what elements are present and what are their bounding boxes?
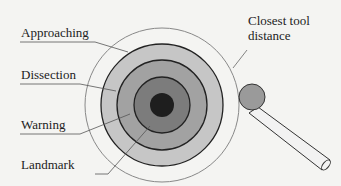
label-distance: distance [248, 29, 291, 43]
label-dissection: Dissection [21, 68, 76, 82]
label-approaching: Approaching [21, 26, 89, 40]
leader-dissection [20, 84, 116, 91]
leader-approaching [20, 42, 128, 52]
leader-closest-distance [233, 50, 247, 68]
surgical-tool-icon [239, 84, 332, 172]
label-landmark: Landmark [21, 158, 74, 172]
label-warning: Warning [21, 118, 65, 132]
zone-landmark [150, 93, 174, 117]
label-closest-tool: Closest tool [248, 14, 310, 28]
